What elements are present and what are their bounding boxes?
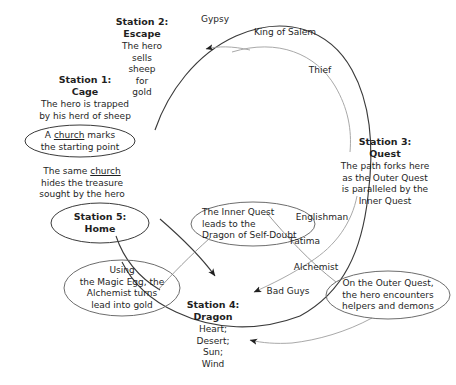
arc-label-king-of-salem: King of Salem: [254, 27, 316, 39]
outer-quest-path: [155, 26, 371, 316]
note-church-start-keyword: church: [54, 130, 85, 140]
station-5-heading-line1: Station 5:: [74, 211, 127, 222]
station-2-heading: Station 2:Escape: [116, 16, 169, 39]
arc-label-alchemist: Alchemist: [294, 262, 338, 274]
station-2-heading-line1: Station 2:: [116, 16, 169, 27]
arc-label-englishman: Englishman: [296, 212, 348, 224]
station-2-heading-line2: Escape: [123, 28, 160, 39]
note-church-treasure: The same churchhides the treasuresought …: [39, 166, 125, 201]
diagram-canvas: Station 2:Escape The hero sells sheep fo…: [0, 0, 456, 385]
arc-label-gypsy: Gypsy: [201, 14, 229, 26]
station-4-body: Heart; Desert; Sun; Wind: [197, 324, 230, 370]
station-3-heading-line2: Quest: [369, 148, 400, 159]
station-5-heading-line2: Home: [85, 223, 116, 234]
note-outer-quest: On the Outer Quest, the hero encounters …: [342, 278, 434, 313]
note-church-start-after: marks: [84, 130, 115, 140]
station-1-body: The hero is trapped by his herd of sheep: [39, 99, 131, 122]
station-3-heading-line1: Station 3:: [359, 136, 412, 147]
note-church-start-before: A: [45, 130, 54, 140]
note-church-start-line2: the starting point: [41, 142, 119, 152]
station-2-body: The hero sells sheep for gold: [122, 41, 162, 99]
note-church-treasure-line3: sought by the hero: [39, 189, 125, 199]
station-4-heading-line1: Station 4:: [187, 299, 240, 310]
note-church-treasure-keyword: church: [90, 166, 121, 176]
station-3-body: The path forks here as the Outer Quest i…: [341, 161, 429, 207]
station-4-heading-line2: Dragon: [193, 311, 232, 322]
station-4-heading: Station 4:Dragon: [187, 299, 240, 322]
note-inner-quest: The Inner Quest leads to the Dragon of S…: [202, 207, 297, 242]
inner-quest-path: [206, 47, 350, 152]
arc-label-bad-guys: Bad Guys: [267, 286, 310, 298]
arc-label-thief: Thief: [309, 65, 331, 77]
station-1-heading-line1: Station 1:: [59, 74, 112, 85]
inner-quest-note-leader: [158, 238, 210, 290]
station-3-heading: Station 3:Quest: [359, 136, 412, 159]
return-path-lower: [250, 318, 372, 343]
note-church-treasure-line2: hides the treasure: [41, 178, 123, 188]
note-church-treasure-before: The same: [43, 166, 90, 176]
note-church-start: A church marksthe starting point: [41, 130, 119, 153]
note-magic-egg: Using the Magic Egg, the Alchemist turns…: [80, 265, 165, 311]
station-1-heading: Station 1:Cage: [59, 74, 112, 97]
station-1-heading-line2: Cage: [72, 86, 99, 97]
station-5-heading: Station 5:Home: [74, 211, 127, 234]
